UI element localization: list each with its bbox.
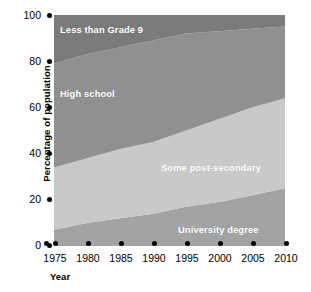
x-tick-dot [119, 241, 124, 246]
x-tick-dot [53, 241, 58, 246]
x-tick-dot [284, 241, 289, 246]
origin-dot [44, 241, 49, 246]
x-tick-label: 1975 [40, 252, 70, 264]
x-tick-label: 1985 [106, 252, 136, 264]
x-tick-label: 2000 [205, 252, 235, 264]
x-tick-label: 2010 [271, 252, 301, 264]
x-tick-label: 1995 [172, 252, 202, 264]
x-tick-dot [152, 241, 157, 246]
chart-figure: Percentage of population 100 80 60 40 20… [0, 0, 311, 292]
x-tick-dot [251, 241, 256, 246]
x-tick-dot [185, 241, 190, 246]
x-axis-ticks: 1975 1980 1985 1990 1995 2000 2005 2010 [0, 0, 311, 292]
x-tick-dot [86, 241, 91, 246]
x-tick-dot [218, 241, 223, 246]
x-tick-label: 2005 [238, 252, 268, 264]
x-tick-label: 1990 [139, 252, 169, 264]
x-tick-label: 1980 [73, 252, 103, 264]
x-axis-title: Year [50, 271, 70, 282]
